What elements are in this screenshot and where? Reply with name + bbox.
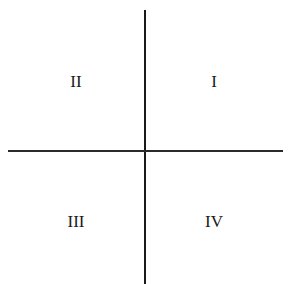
quadrant-label-i: I — [211, 72, 217, 92]
horizontal-axis — [8, 150, 283, 152]
quadrant-label-ii: II — [70, 72, 81, 92]
quadrant-label-iii: III — [68, 212, 85, 232]
vertical-axis — [144, 10, 146, 284]
quadrant-label-iv: IV — [205, 212, 223, 232]
